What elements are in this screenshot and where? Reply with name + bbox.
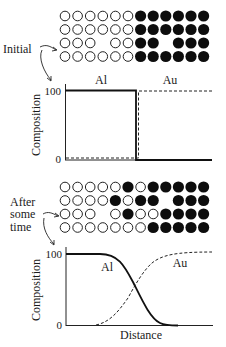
- au-atom: [173, 37, 184, 48]
- au-atom: [148, 37, 159, 48]
- au-label: Au: [173, 256, 188, 270]
- al-atom: [60, 196, 70, 206]
- au-atom: [135, 51, 146, 62]
- al-atom: [85, 52, 95, 62]
- al-label: Al: [101, 260, 114, 274]
- au-atom: [173, 222, 184, 233]
- after-label: After some time: [10, 195, 35, 234]
- au-atom: [160, 208, 171, 219]
- al-atom: [111, 25, 121, 35]
- initial-composition-graph: 100 0 Al Au Composition: [29, 73, 212, 165]
- al-atom: [136, 209, 146, 219]
- svg-text:time: time: [10, 220, 31, 234]
- al-atom: [123, 196, 133, 206]
- al-atom: [136, 223, 146, 233]
- atom-grid-initial: [60, 10, 209, 62]
- atom-grid-after: [60, 181, 209, 233]
- svg-text:some: some: [10, 207, 35, 221]
- au-atom: [173, 195, 184, 206]
- au-atom: [185, 208, 196, 219]
- al-atom: [60, 25, 70, 35]
- al-atom: [60, 209, 70, 219]
- au-atom: [198, 24, 209, 35]
- al-atom: [73, 52, 83, 62]
- au-atom: [110, 195, 121, 206]
- al-atom: [123, 52, 133, 62]
- al-atom: [85, 25, 95, 35]
- al-atom: [136, 182, 146, 192]
- al-atom: [98, 223, 108, 233]
- al-atom: [60, 38, 70, 48]
- al-atom: [73, 11, 83, 21]
- au-atom: [122, 181, 133, 192]
- al-atom: [111, 223, 121, 233]
- au-atom: [198, 222, 209, 233]
- al-atom: [85, 223, 95, 233]
- au-atom: [185, 222, 196, 233]
- al-atom: [98, 196, 108, 206]
- au-atom: [185, 195, 196, 206]
- au-atom: [148, 24, 159, 35]
- au-atom: [185, 37, 196, 48]
- ytick-0: 0: [56, 153, 62, 165]
- au-atom: [173, 51, 184, 62]
- al-atom: [85, 209, 95, 219]
- al-atom: [60, 11, 70, 21]
- au-label: Au: [163, 73, 178, 87]
- au-atom: [148, 10, 159, 21]
- al-atom: [98, 25, 108, 35]
- ylabel-composition: Composition: [29, 94, 43, 156]
- au-atom: [198, 208, 209, 219]
- au-atom: [198, 51, 209, 62]
- al-atom: [85, 38, 95, 48]
- al-atom: [98, 11, 108, 21]
- au-atom: [135, 24, 146, 35]
- au-atom: [198, 181, 209, 192]
- ytick-0: 0: [57, 319, 63, 331]
- au-atom: [148, 181, 159, 192]
- au-atom: [160, 24, 171, 35]
- au-atom: [173, 181, 184, 192]
- au-atom: [185, 181, 196, 192]
- after-composition-graph: 100 0 Al Au Composition Distance: [29, 247, 213, 342]
- al-atom: [123, 223, 133, 233]
- au-atom: [198, 10, 209, 21]
- au-atom: [135, 10, 146, 21]
- au-atom: [148, 195, 159, 206]
- au-atom: [160, 10, 171, 21]
- xlabel-distance: Distance: [120, 328, 162, 342]
- al-atom: [60, 182, 70, 192]
- al-atom: [111, 182, 121, 192]
- al-atom: [73, 38, 83, 48]
- al-atom: [73, 25, 83, 35]
- au-atom: [148, 51, 159, 62]
- au-atom: [160, 222, 171, 233]
- au-atom: [122, 208, 133, 219]
- al-atom: [60, 223, 70, 233]
- au-atom: [185, 51, 196, 62]
- al-atom: [85, 11, 95, 21]
- au-atom: [148, 222, 159, 233]
- initial-label: Initial: [3, 42, 32, 56]
- after-arrows-icon: [43, 213, 59, 245]
- al-atom: [123, 25, 133, 35]
- al-atom: [148, 209, 158, 219]
- ytick-100: 100: [46, 248, 63, 260]
- au-atom: [198, 195, 209, 206]
- al-atom: [73, 182, 83, 192]
- au-atom: [135, 195, 146, 206]
- al-atom: [60, 52, 70, 62]
- al-atom: [111, 52, 121, 62]
- ytick-100: 100: [45, 85, 62, 97]
- al-label: Al: [95, 73, 108, 87]
- diffusion-diagram: Initial 100 0 Al Au Composition After so…: [0, 0, 226, 347]
- au-atom: [173, 24, 184, 35]
- au-atom: [173, 208, 184, 219]
- al-atom: [85, 182, 95, 192]
- au-atom: [173, 10, 184, 21]
- al-atom: [111, 11, 121, 21]
- al-atom: [85, 196, 95, 206]
- al-atom: [73, 196, 83, 206]
- al-atom: [123, 11, 133, 21]
- au-atom: [135, 37, 146, 48]
